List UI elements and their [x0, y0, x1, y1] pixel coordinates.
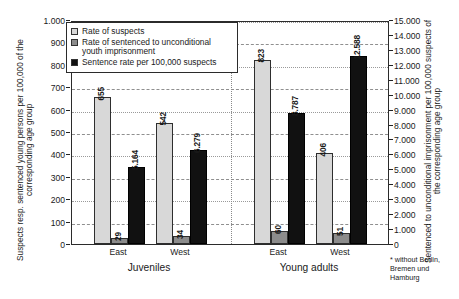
right-tick-label: 7.000 — [394, 135, 416, 145]
right-tick-mark — [389, 110, 393, 111]
x-tick-label: West — [330, 247, 349, 257]
x-tick-label: East — [109, 247, 126, 257]
bar-value-label: 8.787 — [291, 96, 300, 116]
right-tick-label: 12.000 — [394, 61, 420, 71]
x-tick-label: West — [170, 247, 189, 257]
bar-value-label: 29 — [114, 232, 123, 241]
bar-value-text: 5.164 — [131, 150, 140, 170]
right-tick-mark — [389, 20, 393, 21]
right-tick-label: 11.000 — [394, 76, 420, 86]
legend-item-label: Rate of suspects — [82, 27, 233, 37]
left-tick-label: 0 — [60, 240, 65, 250]
bar-value-label: 6.279 — [193, 133, 202, 153]
bar: 51 — [333, 233, 350, 244]
right-tick-label: 3.000 — [394, 195, 416, 205]
legend-item[interactable]: Rate of sentenced to unconditional youth… — [70, 38, 233, 57]
left-tick-label: 400 — [51, 150, 65, 160]
right-tick-label: 0 — [394, 240, 399, 250]
right-tick-label: 2.000 — [394, 210, 416, 220]
chart-footnote: * without Berlin, Bremen und Hamburg — [390, 255, 459, 282]
legend-swatch-icon — [71, 39, 78, 46]
bar: 542 — [156, 123, 173, 244]
right-tick-mark — [389, 244, 393, 245]
bar-value-text: 406 — [319, 143, 328, 156]
group-label: Juveniles — [128, 262, 170, 273]
bar-value-text: 6.279 — [193, 133, 202, 153]
bar: 5.164 — [128, 167, 145, 244]
right-tick-label: 13.000 — [394, 46, 420, 56]
bar-value-label: 655 — [97, 87, 106, 100]
bar-value-label: 51 — [336, 227, 345, 236]
right-tick-mark — [389, 95, 393, 96]
right-tick-label: 15.000 — [394, 16, 420, 26]
bar-value-label: 406 — [319, 143, 328, 156]
bar: 6.279 — [190, 150, 207, 244]
left-tick-mark — [66, 244, 70, 245]
bar-value-label: 5.164 — [131, 150, 140, 170]
left-tick-label: 800 — [51, 61, 65, 71]
left-tick-mark — [66, 177, 70, 178]
gridline — [72, 156, 388, 157]
right-tick-label: 4.000 — [394, 180, 416, 190]
legend-swatch-icon — [71, 59, 78, 66]
left-tick-mark — [66, 154, 70, 155]
left-tick-mark — [66, 132, 70, 133]
bar: 655 — [94, 97, 111, 244]
right-tick-label: 14.000 — [394, 31, 420, 41]
legend-item-label: Sentence rate per 100,000 suspects — [82, 58, 233, 68]
right-tick-label: 5.000 — [394, 165, 416, 175]
right-axis-ticks: 01.0002.0003.0004.0005.0006.0007.0008.00… — [389, 21, 423, 245]
left-tick-label: 900 — [51, 38, 65, 48]
left-tick-mark — [66, 222, 70, 223]
right-tick-mark — [389, 50, 393, 51]
left-axis-ticks: 01002003004005006007008009001.000 — [34, 21, 70, 245]
left-tick-mark — [66, 199, 70, 200]
bar-value-label: 823 — [257, 49, 266, 62]
legend-item[interactable]: Rate of suspects — [70, 27, 233, 37]
bar-value-label: 12.588 — [353, 35, 362, 59]
bar-value-text: 29 — [114, 232, 123, 241]
right-tick-mark — [389, 229, 393, 230]
gridline — [72, 112, 388, 113]
right-tick-mark — [389, 125, 393, 126]
bar-value-text: 60 — [274, 225, 283, 234]
bar-value-text: 8.787 — [291, 96, 300, 116]
chart-figure: Suspects resp. sentenced young persons p… — [0, 0, 459, 299]
legend-swatch-icon — [71, 28, 78, 35]
bar: 406 — [316, 153, 333, 244]
x-tick-label: East — [269, 247, 286, 257]
left-tick-label: 600 — [51, 106, 65, 116]
right-tick-mark — [389, 199, 393, 200]
bar-value-text: 823 — [257, 49, 266, 62]
bar-value-label: 542 — [159, 112, 168, 125]
left-tick-label: 300 — [51, 173, 65, 183]
bar-value-label: 34 — [176, 230, 185, 239]
left-tick-mark — [66, 20, 70, 21]
left-tick-mark — [66, 110, 70, 111]
bar: 823 — [254, 60, 271, 244]
bar-value-text: 51 — [336, 227, 345, 236]
bar-value-text: 542 — [159, 112, 168, 125]
right-tick-mark — [389, 80, 393, 81]
chart-legend: Rate of suspectsRate of sentenced to unc… — [66, 22, 238, 73]
group-label: Young adults — [280, 262, 339, 273]
right-tick-mark — [389, 184, 393, 185]
legend-item-label: Rate of sentenced to unconditional youth… — [82, 38, 233, 57]
gridline — [72, 134, 388, 135]
right-tick-mark — [389, 65, 393, 66]
left-axis-title-text: Suspects resp. sentenced young persons p… — [16, 36, 35, 264]
right-axis-title-text: Sentenced to unconditional imprisonment … — [424, 18, 443, 264]
left-tick-label: 700 — [51, 83, 65, 93]
gridline — [72, 179, 388, 180]
bar: 60 — [271, 231, 288, 244]
right-tick-mark — [389, 169, 393, 170]
bar-value-label: 60 — [274, 225, 283, 234]
left-tick-label: 200 — [51, 195, 65, 205]
legend-item[interactable]: Sentence rate per 100,000 suspects — [70, 58, 233, 68]
right-tick-label: 8.000 — [394, 121, 416, 131]
bar-value-text: 34 — [176, 230, 185, 239]
bar-value-text: 12.588 — [353, 35, 362, 59]
right-tick-mark — [389, 35, 393, 36]
bar: 8.787 — [288, 113, 305, 244]
left-tick-label: 500 — [51, 128, 65, 138]
